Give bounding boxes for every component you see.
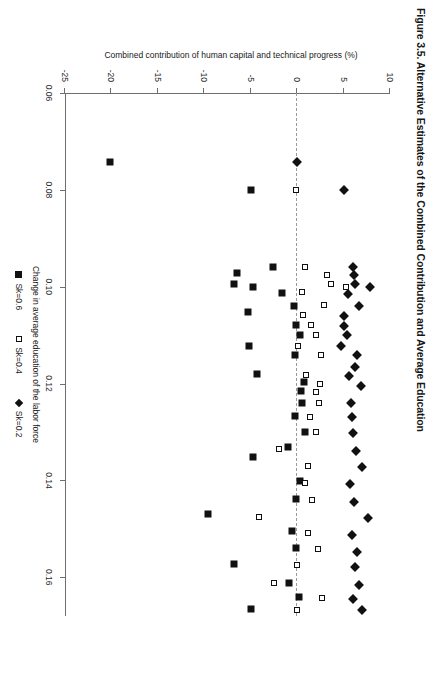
data-point-sk06 [231,560,238,567]
figure-title: Figure 3.5. Alternative Estimates of the… [415,8,427,432]
data-point-sk02 [349,497,359,507]
y-tick-label: -10 [199,70,209,82]
data-point-sk06 [244,308,251,315]
data-point-sk04 [307,414,313,420]
data-point-sk02 [351,446,361,456]
figure-page: Figure 3.5. Alternative Estimates of the… [0,0,436,693]
data-point-sk06 [245,342,252,349]
data-point-sk02 [342,330,352,340]
data-point-sk06 [233,270,240,277]
y-tick-mark [203,88,204,93]
data-point-sk02 [343,289,353,299]
data-point-sk06 [293,545,300,552]
legend-marker-icon [16,336,22,342]
x-tick-label: 0.06 [44,85,54,102]
x-axis-line [65,93,66,616]
data-point-sk04 [305,530,311,536]
data-point-sk02 [357,605,367,615]
y-tick-label: -5 [246,74,256,82]
x-tick-label: 0.12 [44,375,54,392]
legend-entry: Sk=0.4 [14,336,24,374]
data-point-sk06 [250,454,257,461]
x-tick-label: 0.10 [44,278,54,295]
x-tick-label: 0.14 [44,472,54,489]
data-point-sk04 [294,562,300,568]
data-point-sk06 [291,303,298,310]
data-point-sk04 [313,389,319,395]
data-point-sk06 [293,322,300,329]
x-tick-mark [60,190,65,191]
legend-marker-icon [15,399,23,407]
data-point-sk06 [247,186,254,193]
data-point-sk06 [292,413,299,420]
x-tick-mark [60,93,65,94]
data-point-sk02 [292,157,302,167]
data-point-sk04 [308,322,314,328]
data-point-sk06 [297,387,304,394]
data-point-sk06 [279,289,286,296]
chart-legend: Sk=0.6Sk=0.4Sk=0.2 [14,93,24,616]
data-point-sk04 [324,272,330,278]
x-tick-mark [60,287,65,288]
legend-marker-icon [16,271,23,278]
data-point-sk06 [250,283,257,290]
data-point-sk04 [302,264,308,270]
data-point-sk06 [270,264,277,271]
data-point-sk02 [363,513,373,523]
data-point-sk06 [254,370,261,377]
data-point-sk02 [366,282,376,292]
data-point-sk02 [344,371,354,381]
data-point-sk02 [347,413,357,423]
scatter-plot-area: 0.060.080.100.120.140.16 1050-5-10-15-20… [65,93,390,616]
data-point-sk04 [276,446,282,452]
y-axis-title: Combined contribution of human capital a… [66,50,396,60]
data-point-sk06 [106,158,113,165]
data-point-sk04 [303,372,309,378]
data-point-sk04 [303,480,309,486]
data-point-sk04 [315,546,321,552]
data-point-sk06 [298,399,305,406]
data-point-sk04 [256,514,262,520]
legend-label: Sk=0.2 [14,411,24,438]
data-point-sk02 [350,362,360,372]
x-tick-mark [60,384,65,385]
data-point-sk04 [317,381,323,387]
data-point-sk04 [313,332,319,338]
data-point-sk04 [309,497,315,503]
data-point-sk04 [294,607,300,613]
y-tick-label: -25 [60,70,70,82]
data-point-sk02 [354,580,364,590]
data-point-sk02 [350,279,360,289]
y-tick-mark [250,88,251,93]
data-point-sk02 [345,479,355,489]
data-point-sk02 [336,341,346,351]
x-tick-label: 0.16 [44,569,54,586]
legend-label: Sk=0.4 [14,347,24,374]
data-point-sk06 [296,332,303,339]
y-tick-label: 5 [339,77,349,82]
data-point-sk04 [293,187,299,193]
y-axis-line [65,93,390,94]
data-point-sk06 [296,593,303,600]
x-axis-title: Change in average education of the labor… [31,93,41,616]
data-point-sk02 [340,185,350,195]
data-point-sk06 [302,428,309,435]
legend-entry: Sk=0.2 [14,400,24,438]
data-point-sk02 [356,381,366,391]
data-point-sk02 [350,562,360,572]
x-tick-mark [60,577,65,578]
data-point-sk02 [346,398,356,408]
y-tick-label: -20 [106,70,116,82]
data-point-sk02 [354,301,364,311]
data-point-sk06 [247,605,254,612]
data-point-sk02 [348,428,358,438]
y-tick-mark [157,88,158,93]
data-point-sk04 [319,595,325,601]
data-point-sk04 [318,352,324,358]
data-point-sk02 [352,547,362,557]
data-point-sk02 [348,594,358,604]
data-point-sk04 [295,343,301,349]
data-point-sk02 [349,270,359,280]
data-point-sk04 [271,580,277,586]
y-tick-label: 10 [385,73,395,82]
